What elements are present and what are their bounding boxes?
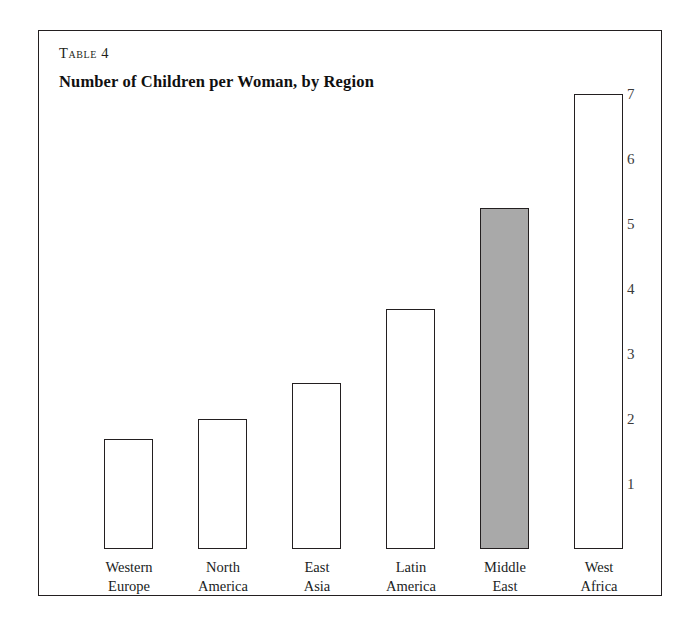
bar-category-label: LatinAmerica (364, 558, 458, 595)
bar-category-label-line2: America (176, 577, 270, 596)
bar-column[interactable]: NorthAmerica (176, 31, 270, 597)
bar-rect[interactable] (480, 208, 529, 549)
bar-category-label-line2: America (364, 577, 458, 596)
bar-category-label-line2: East (458, 577, 552, 596)
bar-category-label-line2: Africa (552, 577, 646, 596)
bar-category-label: EastAsia (270, 558, 364, 595)
bar-rect[interactable] (574, 94, 623, 549)
bar-category-label-line1: East (270, 558, 364, 577)
figure-root: Table 4 Number of Children per Woman, by… (0, 0, 693, 631)
bar-category-label-line2: Europe (82, 577, 176, 596)
bar-column[interactable]: WesternEurope (82, 31, 176, 597)
bar-column[interactable]: EastAsia (270, 31, 364, 597)
bar-column[interactable]: WestAfrica (552, 31, 646, 597)
bar-rect[interactable] (104, 439, 153, 550)
bar-category-label-line2: Asia (270, 577, 364, 596)
bar-category-label-line1: North (176, 558, 270, 577)
bar-category-label: NorthAmerica (176, 558, 270, 595)
bar-category-label: MiddleEast (458, 558, 552, 595)
bar-category-label-line1: Latin (364, 558, 458, 577)
bar-category-label: WestAfrica (552, 558, 646, 595)
bar-column[interactable]: MiddleEast (458, 31, 552, 597)
table-frame: Table 4 Number of Children per Woman, by… (38, 30, 662, 596)
bar-category-label-line1: Western (82, 558, 176, 577)
bar-category-label-line1: West (552, 558, 646, 577)
bar-rect[interactable] (198, 419, 247, 549)
plot-area: 7654321 WesternEuropeNorthAmericaEastAsi… (39, 31, 663, 597)
bar-category-label-line1: Middle (458, 558, 552, 577)
bar-rect[interactable] (386, 309, 435, 550)
bar-column[interactable]: LatinAmerica (364, 31, 458, 597)
bar-rect[interactable] (292, 383, 341, 549)
bar-category-label: WesternEurope (82, 558, 176, 595)
